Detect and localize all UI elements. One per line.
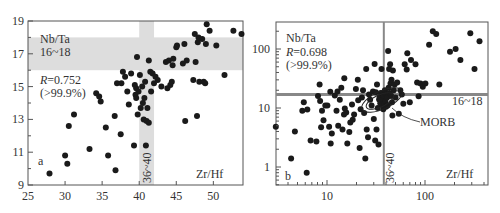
data-point [324,103,330,109]
data-point [118,80,124,86]
y-band-label-nbta: Nb/Ta [40,32,70,46]
data-point [184,57,190,63]
data-point [304,107,310,113]
data-point [105,153,111,159]
morb-label: MORB [420,115,455,129]
data-point [133,95,139,101]
y-band-label-range: 16~18 [40,45,71,59]
data-point [453,46,459,52]
data-point [193,59,199,65]
x-tick-label: 45 [170,189,182,203]
data-point [155,77,161,83]
data-point [143,143,149,149]
data-point [328,141,334,147]
data-point [202,80,208,86]
data-point [181,41,187,47]
data-point [387,61,393,67]
data-point [126,102,132,108]
data-point [404,50,410,56]
data-point [376,142,382,148]
correlation-label: R=0.698 [285,45,327,59]
data-point [338,85,344,91]
data-point [292,129,298,135]
data-point [457,57,463,63]
panel-label-a: a [38,154,44,168]
data-point [389,112,395,118]
data-point [372,61,378,67]
data-point [47,171,53,177]
data-point [364,127,370,133]
data-point [350,117,356,123]
data-point [142,79,148,85]
data-point [112,113,118,119]
data-point [158,84,164,90]
data-point [413,61,419,67]
x-axis-label: Zr/Hf [196,167,223,181]
significance-label: (>99.9%) [286,58,332,72]
correlation-value: =0.698 [293,45,327,59]
data-point [146,57,152,63]
y-tick-label: 100 [252,42,270,56]
data-point [128,71,134,77]
y-tick-label: 10 [258,101,270,115]
data-point [353,86,359,92]
data-point [230,28,236,34]
data-point [369,103,375,109]
data-point [190,77,196,83]
data-point [144,105,150,111]
data-point [341,75,347,81]
x-line-label: 36~40 [383,153,397,184]
y-line-label: 16~18 [452,94,483,108]
data-point [362,155,368,161]
data-point [170,62,176,68]
data-point [400,101,406,107]
data-point [131,143,137,149]
data-point [122,74,128,80]
data-point [343,110,349,116]
data-point [404,67,410,73]
correlation-value: =0.752 [47,73,81,87]
y-tick-label: 15 [12,80,24,94]
data-point [374,82,380,88]
data-point [136,89,142,95]
data-point [134,54,140,60]
data-point [355,77,361,83]
data-point [346,129,352,135]
data-point [222,72,228,78]
data-point [329,131,335,137]
data-point [98,98,104,104]
data-point [62,153,68,159]
data-point [146,120,152,126]
data-point [344,141,350,147]
data-point [207,28,213,34]
data-point [317,82,323,88]
data-point [288,155,294,161]
x-band-label: 36~40 [140,153,154,184]
data-point [340,127,346,133]
data-point [371,116,377,122]
y-tick-label: 13 [12,112,24,126]
y-tick-label: 11 [12,145,24,159]
data-point [239,31,245,37]
data-point [321,117,327,123]
data-point [407,99,413,105]
chart-panel-b: 10100110100 Nb/Ta R=0.698 (>99.9%) 16~18… [252,22,488,203]
data-point [416,93,422,99]
data-point [169,79,175,85]
data-point [394,80,400,86]
x-tick-label: 35 [96,189,108,203]
y-tick-label: 19 [12,14,24,28]
data-point [113,167,119,173]
data-point [374,127,380,133]
data-point [326,124,332,130]
data-point [148,89,154,95]
y-tick-label: 9 [18,178,24,192]
data-point [363,66,369,72]
data-point [357,145,363,151]
data-point [337,97,343,103]
data-point [203,41,209,47]
data-point [66,123,72,129]
significance-label: (>99.9%) [40,86,86,100]
data-point [334,108,340,114]
data-point [141,95,147,101]
